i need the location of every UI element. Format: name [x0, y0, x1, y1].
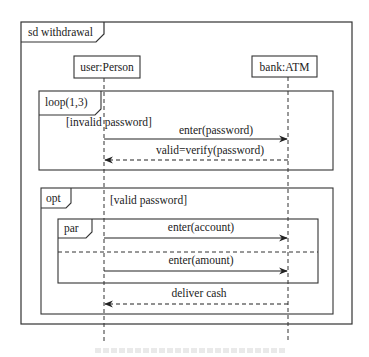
loop-operator: loop(1,3)	[45, 96, 88, 109]
message-enter-account-label: enter(account)	[168, 221, 235, 234]
message-enter-password-label: enter(password)	[179, 124, 253, 137]
figure-caption	[95, 348, 285, 353]
opt-fragment: opt [valid password] par enter(account) …	[41, 188, 333, 314]
sd-frame-label: sd withdrawal	[28, 26, 93, 38]
par-fragment: par enter(account) enter(amount)	[58, 219, 318, 283]
loop-fragment: loop(1,3) [invalid password] enter(passw…	[39, 91, 333, 170]
opt-operator: opt	[46, 192, 62, 205]
message-verify-label: valid=verify(password)	[156, 144, 264, 157]
par-operator: par	[64, 222, 79, 235]
lifeline-bank-label: bank:ATM	[260, 61, 310, 73]
lifeline-user-label: user:Person	[80, 61, 134, 73]
lifeline-bank: bank:ATM	[252, 56, 317, 341]
message-deliver-cash-label: deliver cash	[171, 287, 226, 299]
sequence-diagram: sd withdrawal user:Person bank:ATM loop(…	[0, 0, 369, 357]
opt-guard: [valid password]	[110, 194, 187, 207]
loop-guard: [invalid password]	[66, 116, 152, 129]
message-enter-amount-label: enter(amount)	[168, 254, 233, 267]
